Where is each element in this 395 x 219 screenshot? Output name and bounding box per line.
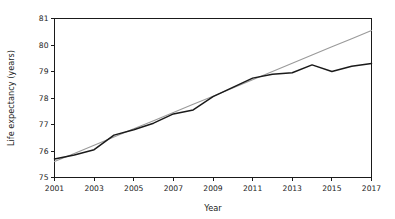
x-axis-title: Year (203, 203, 222, 213)
axis-frame-path (55, 19, 372, 178)
x-tick-label: 2009 (203, 184, 222, 193)
chart-figure: 75767778798081 2001200320052007200920112… (0, 0, 395, 219)
y-tick-label: 75 (39, 173, 49, 182)
line-chart: 75767778798081 2001200320052007200920112… (0, 0, 395, 219)
data-series-layer (55, 30, 372, 161)
x-tick-label: 2001 (45, 184, 64, 193)
x-tick-label: 2005 (124, 184, 143, 193)
y-tick-label: 80 (39, 41, 49, 50)
x-tick-label: 2017 (362, 184, 381, 193)
plot-frame (55, 19, 372, 178)
y-tick-label: 79 (39, 67, 49, 76)
x-tick-label: 2003 (84, 184, 103, 193)
y-axis-title: Life expectancy (years) (6, 50, 16, 146)
series-life-expectancy-observed (55, 64, 372, 159)
y-tick-label: 81 (39, 14, 49, 23)
y-tick-label: 76 (39, 147, 49, 156)
x-axis-ticks: 200120032005200720092011201320152017 (45, 178, 381, 194)
x-tick-label: 2015 (322, 184, 341, 193)
y-axis-ticks: 75767778798081 (39, 14, 55, 182)
y-tick-label: 77 (39, 120, 49, 129)
x-tick-label: 2007 (164, 184, 183, 193)
x-tick-label: 2011 (243, 184, 262, 193)
x-tick-label: 2013 (283, 184, 302, 193)
y-tick-label: 78 (39, 94, 49, 103)
